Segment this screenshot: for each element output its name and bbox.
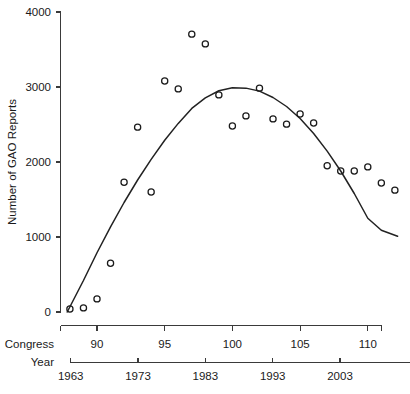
year-tick-label: 2003 [327, 370, 353, 382]
congress-tick-label: 110 [359, 338, 377, 350]
data-point [135, 124, 141, 130]
year-axis-ticks [71, 358, 340, 363]
year-tick-label: 1973 [125, 370, 151, 382]
y-axis: 01000200030004000 [25, 6, 60, 318]
trend-curve [67, 88, 397, 312]
data-point [270, 116, 276, 122]
year-axis: 19631973198319932003 [58, 358, 410, 383]
y-tick-label: 4000 [25, 6, 51, 18]
data-point [311, 120, 317, 126]
year-tick-label: 1963 [58, 370, 84, 382]
y-axis-ticks [56, 12, 61, 312]
congress-axis: 9095100105110 [61, 326, 382, 351]
data-point [94, 296, 100, 302]
year-axis-tick-labels: 19631973198319932003 [58, 370, 353, 382]
year-row-label: Year [31, 356, 54, 368]
data-point [324, 163, 330, 169]
congress-tick-label: 105 [291, 338, 310, 350]
data-point [351, 168, 357, 174]
data-point [121, 179, 127, 185]
chart-figure: 01000200030004000 Number of GAO Reports … [0, 0, 410, 394]
data-point [297, 111, 303, 117]
data-point [175, 86, 181, 92]
year-tick-label: 1983 [193, 370, 219, 382]
data-point [80, 305, 86, 311]
congress-axis-ticks [97, 326, 368, 331]
congress-axis-tick-labels: 9095100105110 [91, 338, 377, 350]
data-point [256, 85, 262, 91]
gao-reports-scatter-plot: 01000200030004000 Number of GAO Reports … [0, 0, 410, 394]
data-point [392, 187, 398, 193]
data-point [189, 31, 195, 37]
congress-tick-label: 95 [158, 338, 171, 350]
data-point [202, 41, 208, 47]
y-tick-label: 2000 [25, 156, 51, 168]
congress-tick-label: 100 [223, 338, 242, 350]
congress-tick-label: 90 [91, 338, 104, 350]
data-point [378, 180, 384, 186]
data-point [283, 121, 289, 127]
data-point [365, 164, 371, 170]
data-point [229, 123, 235, 129]
data-point-group [67, 31, 398, 312]
y-tick-label: 3000 [25, 81, 51, 93]
data-point [216, 92, 222, 98]
y-axis-tick-labels: 01000200030004000 [25, 6, 51, 318]
y-axis-title: Number of GAO Reports [6, 99, 18, 225]
data-point [243, 113, 249, 119]
data-point [107, 260, 113, 266]
congress-row-label: Congress [5, 338, 54, 350]
data-point [162, 78, 168, 84]
y-tick-label: 0 [45, 306, 51, 318]
year-tick-label: 1993 [260, 370, 286, 382]
data-point [148, 189, 154, 195]
y-tick-label: 1000 [25, 231, 51, 243]
